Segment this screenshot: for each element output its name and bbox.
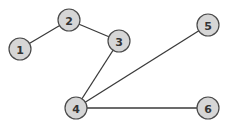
node-label: 1	[16, 44, 24, 57]
node-label: 5	[204, 20, 212, 33]
node-label: 6	[204, 103, 212, 116]
graph-diagram: 1 2 3 4 5 6	[0, 0, 231, 125]
edge-3-4	[76, 41, 119, 108]
node-5: 5	[197, 14, 219, 36]
node-3: 3	[108, 30, 130, 52]
node-1: 1	[9, 38, 31, 60]
nodes: 1 2 3 4 5 6	[9, 9, 219, 119]
edge-4-5	[76, 25, 208, 108]
node-label: 3	[115, 36, 123, 49]
node-4: 4	[65, 97, 87, 119]
node-6: 6	[197, 97, 219, 119]
node-label: 2	[65, 15, 73, 28]
node-2: 2	[58, 9, 80, 31]
node-label: 4	[72, 103, 80, 116]
